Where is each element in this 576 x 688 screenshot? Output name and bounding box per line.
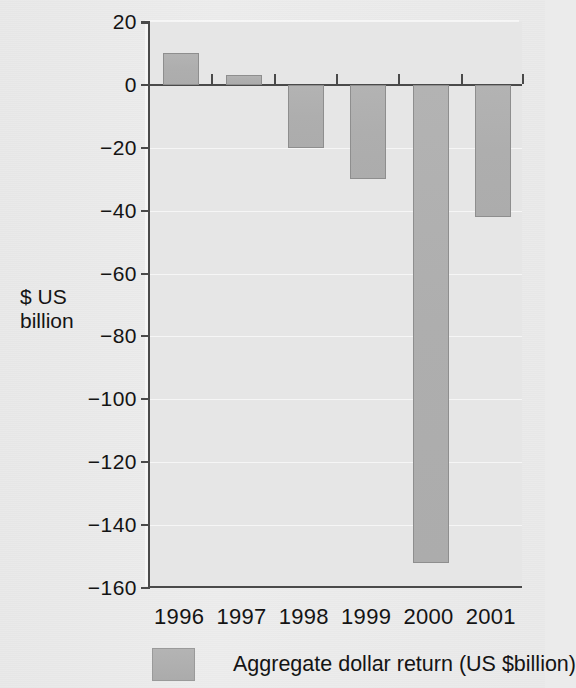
y-gridline [150,336,522,337]
y-tick-label: −60 [100,262,137,286]
y-tick-label: −160 [88,576,137,600]
y-gridline [150,399,522,400]
y-tick-mark [141,22,150,24]
x-tick-mark [211,74,213,84]
y-axis-title: $ US billion [20,285,74,333]
y-tick-label: −120 [88,450,137,474]
y-tick-mark [141,461,150,463]
y-tick-label: −100 [88,387,137,411]
y-tick-mark [141,210,150,212]
x-tick-mark [522,74,524,84]
bar-2001 [475,85,511,217]
x-tick-mark [461,74,463,84]
y-gridline [150,211,522,212]
y-gridline [150,462,522,463]
chart-legend: Aggregate dollar return (US $billion) [152,648,576,681]
bar-color-swatch [152,648,195,681]
x-tick-mark [274,74,276,84]
legend-label: Aggregate dollar return (US $billion) [233,652,576,677]
bar-1997 [226,75,262,84]
bar-1998 [288,85,324,148]
y-tick-label: −20 [100,136,137,160]
bar-1996 [163,53,199,84]
x-axis-label-1998: 1998 [279,604,329,630]
x-tick-mark [336,74,338,84]
y-tick-mark [141,398,150,400]
y-gridline [150,525,522,526]
y-gridline [150,274,522,275]
bar-1999 [350,85,386,179]
y-tick-label: −80 [100,324,137,348]
y-tick-mark [141,84,150,86]
y-tick-mark [141,147,150,149]
x-axis-label-1996: 1996 [154,604,204,630]
plot-inner: 200−20−40−60−80−100−120−140−160 [150,22,522,586]
y-tick-mark [141,524,150,526]
x-axis-label-2001: 2001 [466,604,516,630]
bar-2000 [413,85,449,563]
x-axis-label-2000: 2000 [403,604,453,630]
y-tick-mark [141,273,150,275]
x-tick-mark [398,74,400,84]
plot-area: 200−20−40−60−80−100−120−140−160 [148,22,522,588]
x-axis-label-1999: 1999 [341,604,391,630]
y-gridline [150,148,522,149]
x-axis-label-1997: 1997 [216,604,266,630]
y-tick-label: −40 [100,199,137,223]
y-tick-mark [141,587,150,589]
y-tick-label: 0 [125,73,137,97]
y-tick-label: −140 [88,513,137,537]
zero-baseline [150,84,522,86]
y-tick-label: 20 [113,10,137,34]
y-tick-mark [141,335,150,337]
